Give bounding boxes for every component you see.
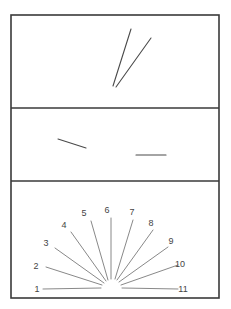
outer-frame: [11, 15, 219, 298]
reference-ray-4: [71, 232, 106, 281]
line-judgment-figure: 1234567891011: [0, 0, 231, 309]
ray-label-10: 10: [175, 259, 185, 269]
reference-ray-11: [122, 288, 178, 289]
reference-ray-5: [91, 221, 108, 280]
bottom-panel-reference-fan: 1234567891011: [33, 205, 187, 294]
middle-panel-stimulus-lines: [58, 139, 166, 155]
ray-label-11: 11: [178, 284, 187, 294]
ray-label-9: 9: [168, 236, 173, 246]
ray-label-8: 8: [148, 218, 153, 228]
reference-ray-1: [43, 288, 101, 289]
ray-label-3: 3: [43, 238, 48, 248]
ray-label-2: 2: [33, 261, 38, 271]
ray-label-5: 5: [81, 208, 86, 218]
ray-label-1: 1: [34, 284, 39, 294]
reference-ray-10: [121, 265, 178, 285]
stimulus-line-2: [116, 38, 151, 87]
ray-label-6: 6: [104, 205, 109, 215]
ray-label-4: 4: [61, 220, 66, 230]
top-panel-stimulus-lines: [113, 29, 151, 87]
stimulus-line-1: [113, 29, 131, 86]
ray-label-7: 7: [129, 207, 134, 217]
stimulus-line-1: [58, 139, 86, 148]
